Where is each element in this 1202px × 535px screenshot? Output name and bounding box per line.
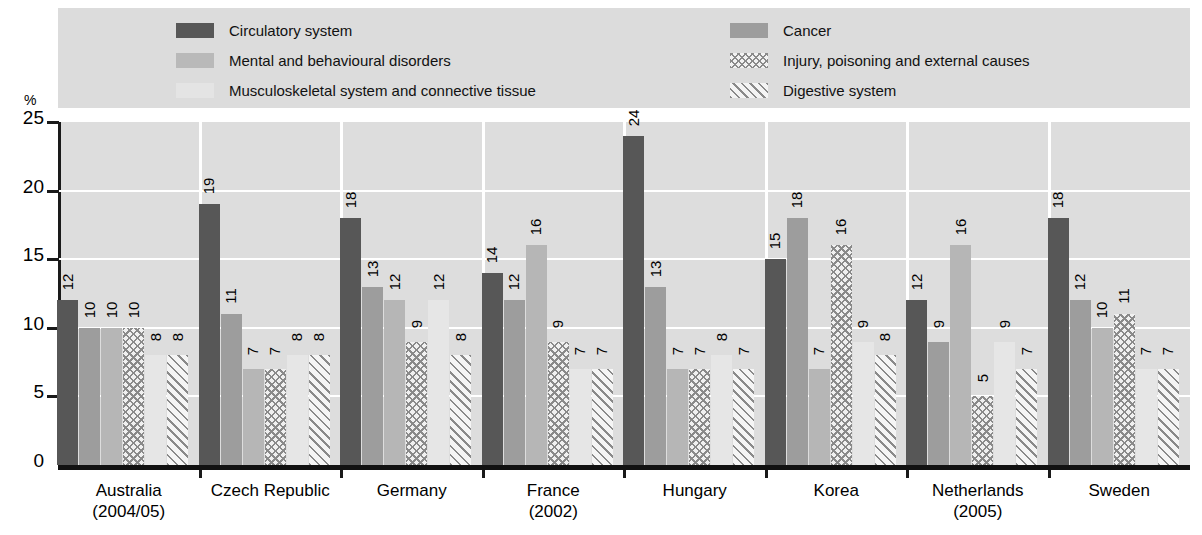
bar-value-label: 5 bbox=[975, 374, 991, 382]
bar-czech-republic-solid-very-light-gray bbox=[287, 355, 308, 465]
bar-germany-solid-very-light-gray bbox=[428, 300, 449, 465]
bar-australia-solid-gray bbox=[79, 328, 100, 465]
bar-hungary-solid-gray bbox=[645, 287, 666, 465]
bar-value-label: 7 bbox=[670, 347, 686, 355]
bar-value-label: 9 bbox=[931, 319, 947, 327]
x-axis-country-name: France bbox=[527, 481, 580, 500]
legend-swatch-musculoskeletal-icon bbox=[176, 83, 214, 98]
bar-france-diagonal-stripes bbox=[592, 369, 613, 465]
bar-hungary-solid-dark-gray bbox=[623, 136, 644, 465]
bar-value-label: 14 bbox=[484, 247, 500, 264]
bar-value-label: 7 bbox=[267, 347, 283, 355]
bar-value-label: 8 bbox=[311, 333, 327, 341]
bar-value-label: 7 bbox=[811, 347, 827, 355]
bar-value-label: 12 bbox=[431, 274, 447, 291]
bar-value-label: 18 bbox=[343, 192, 359, 209]
legend-swatch-mental-icon bbox=[176, 53, 214, 68]
legend-item-circulatory: Circulatory system bbox=[176, 17, 536, 44]
bar-netherlands-diagonal-stripes bbox=[1016, 369, 1037, 465]
chart-legend: Circulatory system Mental and behavioura… bbox=[58, 8, 1190, 108]
x-axis-country-year: (2004/05) bbox=[58, 501, 200, 522]
bar-value-label: 12 bbox=[387, 274, 403, 291]
bar-korea-diagonal-stripes bbox=[875, 355, 896, 465]
bar-value-label: 15 bbox=[767, 233, 783, 250]
legend-column-left: Circulatory system Mental and behavioura… bbox=[176, 17, 536, 107]
bar-czech-republic-solid-gray bbox=[221, 314, 242, 465]
bar-value-label: 19 bbox=[201, 178, 217, 195]
bar-value-label: 13 bbox=[648, 260, 664, 277]
legend-item-mental: Mental and behavioural disorders bbox=[176, 47, 536, 74]
bar-value-label: 12 bbox=[1072, 274, 1088, 291]
bar-germany-solid-medium-gray bbox=[384, 300, 405, 465]
bar-value-label: 12 bbox=[909, 274, 925, 291]
bar-netherlands-solid-very-light-gray bbox=[994, 342, 1015, 465]
legend-swatch-circulatory-icon bbox=[176, 23, 214, 38]
legend-item-cancer: Cancer bbox=[730, 17, 1030, 44]
bar-value-label: 9 bbox=[997, 319, 1013, 327]
bar-france-solid-very-light-gray bbox=[570, 369, 591, 465]
legend-label-injury: Injury, poisoning and external causes bbox=[783, 53, 1030, 68]
bar-hungary-solid-very-light-gray bbox=[711, 355, 732, 465]
bar-sweden-diagonal-stripes bbox=[1158, 369, 1179, 465]
bar-germany-diagonal-stripes bbox=[450, 355, 471, 465]
bar-germany-solid-dark-gray bbox=[340, 218, 361, 465]
bar-netherlands-solid-dark-gray bbox=[906, 300, 927, 465]
legend-column-right: Cancer Injury, poisoning and external ca… bbox=[730, 17, 1030, 107]
bar-value-label: 7 bbox=[572, 347, 588, 355]
x-axis-group-label: Hungary bbox=[624, 480, 766, 501]
bar-value-label: 7 bbox=[594, 347, 610, 355]
x-axis-country-name: Netherlands bbox=[932, 481, 1024, 500]
bar-value-label: 16 bbox=[528, 219, 544, 236]
bar-france-solid-medium-gray bbox=[526, 245, 547, 465]
bar-value-label: 18 bbox=[789, 192, 805, 209]
bar-value-label: 7 bbox=[245, 347, 261, 355]
bar-value-label: 8 bbox=[289, 333, 305, 341]
x-axis-country-name: Germany bbox=[377, 481, 447, 500]
bar-australia-solid-medium-gray bbox=[101, 328, 122, 465]
legend-label-digestive: Digestive system bbox=[783, 83, 896, 98]
bar-value-label: 8 bbox=[714, 333, 730, 341]
bar-value-label: 7 bbox=[1160, 347, 1176, 355]
bar-value-label: 8 bbox=[453, 333, 469, 341]
legend-item-injury: Injury, poisoning and external causes bbox=[730, 47, 1030, 74]
bar-value-label: 7 bbox=[1138, 347, 1154, 355]
bar-korea-cross-hatch bbox=[831, 245, 852, 465]
x-axis-group-label: Sweden bbox=[1049, 480, 1191, 501]
bar-hungary-solid-medium-gray bbox=[667, 369, 688, 465]
bar-value-label: 8 bbox=[170, 333, 186, 341]
x-axis-group-label: Australia(2004/05) bbox=[58, 480, 200, 522]
bar-hungary-diagonal-stripes bbox=[733, 369, 754, 465]
y-axis-tick bbox=[47, 258, 59, 261]
bar-sweden-solid-gray bbox=[1070, 300, 1091, 465]
y-axis-tick-label: 20 bbox=[23, 181, 44, 193]
legend-swatch-injury-icon bbox=[730, 53, 768, 68]
bar-value-label: 16 bbox=[833, 219, 849, 236]
bar-value-label: 9 bbox=[550, 319, 566, 327]
bar-australia-cross-hatch bbox=[123, 328, 144, 465]
bar-france-solid-gray bbox=[504, 300, 525, 465]
x-axis-country-name: Korea bbox=[814, 481, 859, 500]
y-axis-tick-label: 25 bbox=[23, 112, 44, 124]
bar-australia-solid-dark-gray bbox=[57, 300, 78, 465]
bar-value-label: 10 bbox=[104, 301, 120, 318]
bar-czech-republic-solid-dark-gray bbox=[199, 204, 220, 465]
bar-value-label: 10 bbox=[126, 301, 142, 318]
y-axis-tick-label: 15 bbox=[23, 249, 44, 261]
bar-value-label: 12 bbox=[506, 274, 522, 291]
bar-sweden-solid-dark-gray bbox=[1048, 218, 1069, 465]
y-axis-tick-label: 5 bbox=[33, 386, 44, 398]
x-axis-group-label: Germany bbox=[341, 480, 483, 501]
bar-france-solid-dark-gray bbox=[482, 273, 503, 465]
y-axis-tick bbox=[47, 190, 59, 193]
bar-value-label: 10 bbox=[82, 301, 98, 318]
x-axis-group-label: Korea bbox=[766, 480, 908, 501]
bar-netherlands-solid-gray bbox=[928, 342, 949, 465]
bar-australia-solid-very-light-gray bbox=[145, 355, 166, 465]
legend-item-musculoskeletal: Musculoskeletal system and connective ti… bbox=[176, 77, 536, 104]
bar-value-label: 11 bbox=[223, 288, 239, 304]
y-axis-tick-label: 0 bbox=[33, 455, 44, 467]
bar-france-cross-hatch bbox=[548, 342, 569, 465]
bar-value-label: 12 bbox=[60, 274, 76, 291]
bar-australia-diagonal-stripes bbox=[167, 355, 188, 465]
bar-value-label: 7 bbox=[736, 347, 752, 355]
